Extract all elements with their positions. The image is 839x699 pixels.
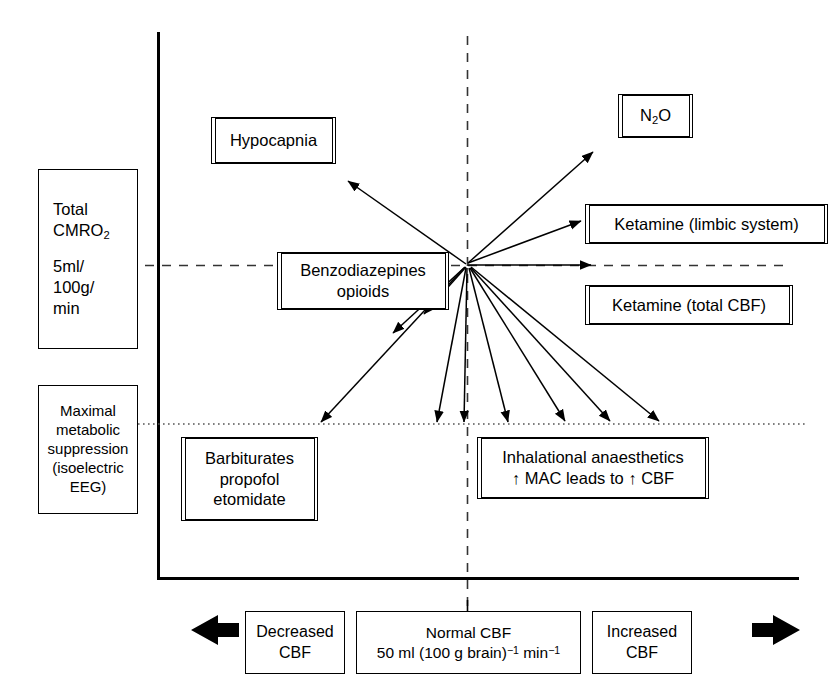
barbiturates-line1: Barbiturates [205,448,294,469]
cmro2-text: CMRO [53,221,103,239]
benzodiazepines-line1: Benzodiazepines [300,260,426,281]
suppression-line2: metabolic [56,421,120,440]
normal-cbf-box: Normal CBF 50 ml (100 g brain)−1 min−1 [356,611,581,674]
hypocapnia-box: Hypocapnia [211,117,336,164]
barbiturates-line3: etomidate [213,489,285,510]
ketamine-limbic-box: Ketamine (limbic system) [585,204,828,244]
decreased-cbf-arrow-icon [191,615,239,645]
total-cmro2-line4: 100g/ [53,277,94,298]
inhalational-line1: Inhalational anaesthetics [502,447,684,468]
total-cmro2-box: Total CMRO2 5ml/ 100g/ min [38,169,138,349]
increased-cbf-line1: Increased [607,622,677,642]
arrow-to-n2o [468,152,593,263]
increased-cbf-line2: CBF [626,643,658,663]
ketamine-total-cbf-box: Ketamine (total CBF) [585,285,793,325]
suppression-line3: suppression [48,440,129,459]
total-cmro2-line3: 5ml/ [53,256,84,277]
decreased-cbf-line1: Decreased [256,622,333,642]
arrow-down-2 [464,268,467,422]
benzodiazepines-opioids-box: Benzodiazepines opioids [277,252,449,310]
decreased-cbf-box: Decreased CBF [245,611,345,674]
increased-cbf-box: Increased CBF [592,611,692,674]
ketamine-total-cbf-label: Ketamine (total CBF) [612,295,766,316]
total-cmro2-line5: min [53,298,80,319]
diagram-vector-layer [0,0,839,699]
suppression-line4: (isoelectric [52,459,124,478]
normal-cbf-line2: 50 ml (100 g brain)−1 min−1 [377,643,560,663]
n2o-label: N2O [640,105,671,127]
n2o-box: N2O [618,94,693,138]
arrow-down-4 [470,268,565,421]
suppression-line1: Maximal [60,402,116,421]
decreased-cbf-line2: CBF [279,643,311,663]
arrow-down-3 [469,268,508,422]
total-cmro2-line2: CMRO2 [53,220,110,242]
ketamine-limbic-label: Ketamine (limbic system) [614,214,798,235]
maximal-metabolic-suppression-box: Maximal metabolic suppression (isoelectr… [38,385,138,514]
barbiturates-box: Barbiturates propofol etomidate [181,437,318,521]
cmro2-subscript: 2 [103,229,109,241]
diagram-canvas: Total CMRO2 5ml/ 100g/ min Maximal metab… [0,0,839,699]
benzodiazepines-line2: opioids [337,281,389,302]
inhalational-anaesthetics-box: Inhalational anaesthetics ↑ MAC leads to… [477,437,709,499]
suppression-line5: EEG) [70,478,107,497]
total-cmro2-line1: Total [53,199,88,220]
normal-cbf-line1: Normal CBF [426,623,511,643]
hypocapnia-label: Hypocapnia [230,130,317,151]
arrow-to-ketamine-limbic [468,221,581,263]
inhalational-line2: ↑ MAC leads to ↑ CBF [512,468,674,489]
barbiturates-line2: propofol [220,469,280,490]
increased-cbf-arrow-icon [752,615,800,645]
